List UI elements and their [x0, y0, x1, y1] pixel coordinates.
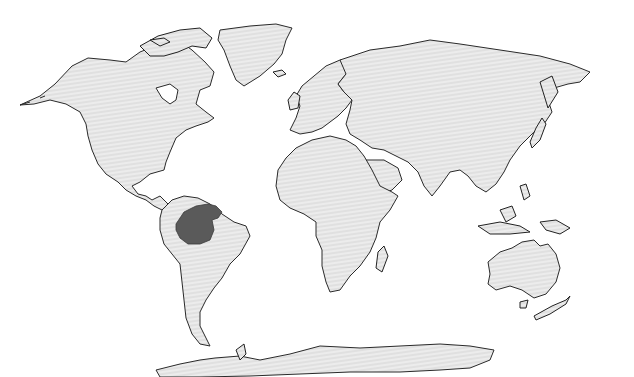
philippines [520, 184, 530, 200]
british-isles [288, 92, 300, 110]
tasmania [520, 300, 528, 308]
borneo [500, 206, 516, 222]
madagascar [376, 246, 388, 272]
arctic-islands [140, 28, 212, 56]
new-guinea [540, 220, 570, 234]
greenland [218, 24, 292, 86]
australia [488, 240, 560, 298]
world-map [0, 0, 634, 377]
antarctica [156, 344, 494, 377]
new-zealand [534, 296, 570, 320]
iceland [273, 70, 286, 77]
north-america [20, 40, 214, 210]
indonesia [478, 222, 530, 234]
